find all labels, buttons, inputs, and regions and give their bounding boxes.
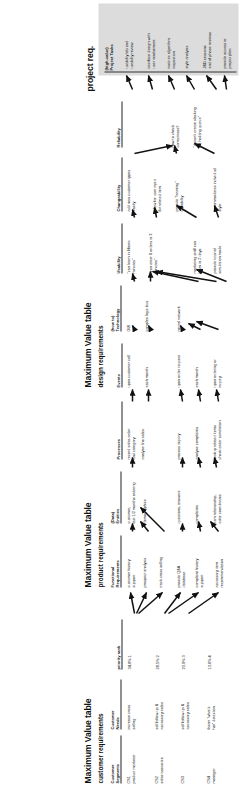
customer-col-header-segments: Customer Segments: [111, 735, 122, 783]
product-row-functional: track cross selling: [159, 533, 164, 587]
customer-col-header-priority: priority rank: [117, 619, 123, 669]
design-row-usability: "can learn in fifteen minutes": [127, 221, 136, 273]
customer-row-rank: 34.8% 1: [127, 655, 132, 669]
product-row-process: analyse line sales: [141, 399, 146, 459]
project-task: usability lab and usability review: [125, 8, 134, 68]
design-col-header-reliability: Reliability: [117, 101, 123, 147]
customer-col-header-needs: Customer Needs: [111, 679, 122, 729]
product-row-process: record sales order and category: [127, 399, 136, 459]
customer-row-rank: 28.5% 2: [155, 655, 160, 669]
design-section-title: Maximum Value table: [83, 302, 93, 387]
product-row-functional: prospect analysis: [143, 533, 148, 587]
project-col-header-tasks: (high-value) Project Tasks: [105, 10, 115, 70]
customer-section-subtitle: customer requirements: [97, 713, 104, 783]
section-product-requirements: Maximum Value table product requirements…: [77, 393, 168, 593]
customer-row-segment: CS1 product marketer: [127, 733, 136, 783]
design-row-event: each month: [145, 339, 150, 387]
product-section-title: Maximum Value table: [83, 502, 93, 587]
project-section-title: project req.: [85, 45, 95, 91]
product-row-entity: demographics: [143, 467, 148, 523]
design-row-changeability: allow for user input for related item: [153, 155, 162, 211]
project-task: interface design with user involvement: [147, 6, 156, 68]
maximum-value-diagram: Maximum Value table customer requirement…: [77, 0, 168, 789]
design-col-header-usability: Usability: [117, 223, 123, 273]
product-col-header-entities: (Data) Entities: [111, 471, 122, 523]
project-rule: [105, 71, 168, 72]
customer-row-segment: CS2 sales associate: [155, 733, 164, 783]
customer-row-need: increase cross selling: [127, 677, 136, 729]
design-row-technology: complex logic bus: [145, 281, 150, 331]
design-col-header-technology: (how to) Technology: [111, 285, 122, 331]
product-col-header-functional: Functional Requirements: [111, 535, 122, 587]
product-section-subtitle: product requirements: [97, 522, 104, 587]
section-customer-requirements: Maximum Value table customer requirement…: [77, 593, 168, 789]
product-row-entity: customer, last 1/2 months ordering: [127, 467, 136, 523]
product-row-functional: customer history support: [127, 533, 136, 587]
customer-row-need: sell follow-up & accessory sales: [155, 677, 164, 729]
design-section-subtitle: design requirements: [97, 325, 104, 387]
customer-section-title: Maximum Value table: [83, 698, 93, 783]
project-task: institute algorithm inspection: [167, 8, 168, 68]
product-col-header-processes: Processes: [117, 401, 123, 459]
section-design-requirements: Maximum Value table design requirements …: [77, 97, 168, 393]
design-col-header-events: Events: [117, 343, 123, 387]
design-col-header-changeability: Changeability: [117, 157, 123, 211]
design-row-usability: "can enter 6 orders in 3 minutes": [149, 221, 158, 273]
design-row-changeability: add new customer types easily: [127, 155, 136, 211]
design-row-event: upon customer call: [127, 339, 132, 387]
section-project-requirements: project req. (high-value) Project Tasks …: [77, 0, 168, 97]
design-row-technology: GUI: [127, 281, 132, 331]
